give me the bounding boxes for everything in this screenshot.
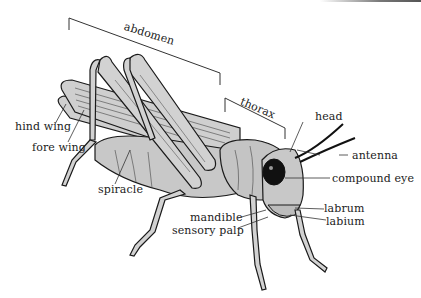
compound-eye-shape [263,159,285,185]
label-head: head [315,111,343,123]
leader-head-2 [290,122,303,152]
label-spiracle: spiracle [98,184,143,196]
label-sensory-palp: sensory palp [172,225,244,237]
label-hind-wing: hind wing [15,121,71,133]
label-labium: labium [326,216,365,228]
leader-labium [290,215,326,220]
grasshopper-diagram: abdomen thorax head antenna compound eye… [0,0,421,298]
front-leg-left [250,195,266,290]
label-compound-eye: compound eye [332,173,414,185]
label-mandible: mandible [190,212,243,224]
label-fore-wing: fore wing [32,142,86,154]
leader-labrum [295,208,324,209]
label-antenna: antenna [352,150,398,162]
middle-leg [130,190,185,256]
antennae [295,124,355,162]
label-labrum: labrum [324,203,365,215]
